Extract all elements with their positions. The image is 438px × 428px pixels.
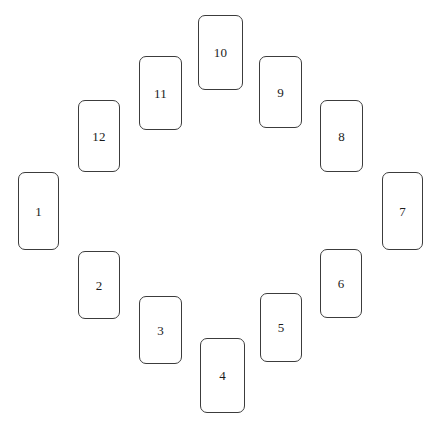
card-label: 5 [278, 321, 285, 334]
card-label: 7 [399, 205, 406, 218]
card-label: 10 [214, 46, 227, 59]
card-circle-canvas: 123456789101112 [0, 0, 438, 428]
card-10[interactable]: 10 [198, 15, 243, 90]
card-8[interactable]: 8 [320, 100, 363, 172]
card-label: 3 [157, 324, 164, 337]
card-1[interactable]: 1 [18, 172, 59, 250]
card-5[interactable]: 5 [260, 293, 302, 362]
card-4[interactable]: 4 [200, 338, 245, 413]
card-2[interactable]: 2 [78, 251, 120, 319]
card-label: 12 [92, 130, 105, 143]
card-12[interactable]: 12 [78, 100, 120, 172]
card-3[interactable]: 3 [139, 296, 182, 364]
card-label: 9 [277, 86, 284, 99]
card-6[interactable]: 6 [320, 249, 362, 318]
card-7[interactable]: 7 [382, 172, 423, 250]
card-label: 1 [35, 205, 42, 218]
card-9[interactable]: 9 [259, 56, 302, 128]
card-label: 2 [96, 279, 103, 292]
card-label: 6 [338, 277, 345, 290]
card-label: 8 [338, 130, 345, 143]
card-label: 11 [154, 87, 167, 100]
card-label: 4 [219, 369, 226, 382]
card-11[interactable]: 11 [139, 56, 182, 130]
